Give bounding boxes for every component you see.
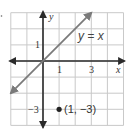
x-axis-label: x (115, 64, 121, 75)
y-tick-label-neg3: −3 (28, 104, 39, 115)
line-y-equals-x (11, 13, 92, 94)
points-layer (57, 107, 62, 112)
x-tick-label-1: 1 (57, 64, 62, 75)
stray-mark (1, 15, 3, 17)
line-equation-annotation: y = x (77, 29, 105, 43)
series-layer (11, 13, 92, 94)
x-tick-label-3: 3 (89, 64, 94, 75)
y-tick-label-1: 1 (35, 39, 40, 50)
y-axis-label: y (48, 11, 54, 22)
point-label: (1, −3) (64, 103, 96, 115)
coordinate-plane: y x 1 3 1 −3 y = x (1, −3) (0, 0, 130, 138)
data-point (57, 107, 62, 112)
